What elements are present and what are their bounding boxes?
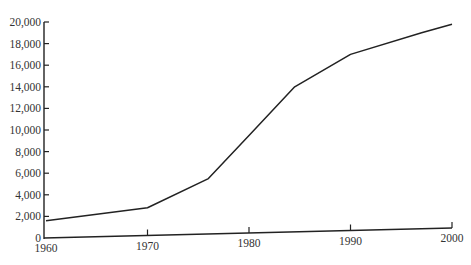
x-tick-label: 1980	[238, 237, 261, 249]
y-axis: 02,0004,0006,0008,00010,00012,00014,0001…	[9, 16, 49, 244]
y-tick-label: 10,000	[9, 124, 41, 137]
y-tick-label: 8,000	[15, 146, 41, 159]
line-chart: 02,0004,0006,0008,00010,00012,00014,0001…	[0, 0, 471, 265]
x-tick-label: 2000	[441, 232, 464, 244]
x-axis: 19601970198019902000	[35, 222, 464, 254]
y-tick-label: 20,000	[9, 16, 41, 29]
y-tick-label: 18,000	[9, 38, 41, 51]
y-tick-label: 12,000	[9, 102, 41, 115]
y-tick-label: 2,000	[15, 210, 41, 223]
y-tick-label: 14,000	[9, 81, 41, 94]
y-tick-label: 4,000	[15, 189, 41, 202]
data-line	[46, 24, 452, 221]
y-tick-label: 6,000	[15, 167, 41, 180]
plot-area	[46, 24, 452, 221]
y-tick-label: 16,000	[9, 59, 41, 72]
x-tick-label: 1960	[35, 242, 58, 254]
x-tick-label: 1970	[136, 240, 159, 252]
x-tick-label: 1990	[339, 235, 362, 247]
